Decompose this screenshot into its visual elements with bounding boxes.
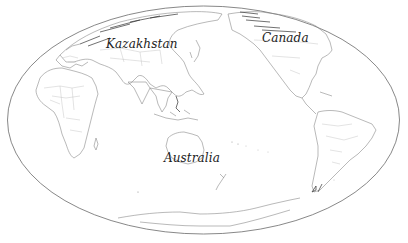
world-map[interactable]: [0, 0, 408, 243]
map-frame: [8, 6, 400, 234]
label-kazakhstan: Kazakhstan: [106, 37, 177, 51]
label-canada: Canada: [262, 31, 309, 45]
label-australia: Australia: [164, 151, 220, 165]
